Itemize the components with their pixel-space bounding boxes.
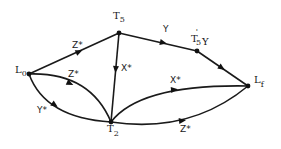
arrowhead-icon <box>112 66 119 73</box>
edge-T5-T2 <box>111 33 119 122</box>
edge-label-T2-Lf-upper: X* <box>170 75 181 85</box>
edge-label-T5-T2: X* <box>121 63 132 73</box>
edge-label-L0-T2-upper: Z* <box>68 69 79 79</box>
edge-label-L0-T2-lower: Y* <box>36 105 47 115</box>
edge-label-T5-T5pY: Y <box>162 24 169 34</box>
node-label-T5pY: T'5Y <box>191 27 209 47</box>
node-T5 <box>117 31 122 36</box>
node-label-Lf: Lf <box>254 74 265 89</box>
node-Lf <box>246 84 251 89</box>
arrowhead-icon <box>171 86 179 93</box>
edge-T2-Lf-upper <box>111 86 248 122</box>
node-label-T2: T2 <box>107 123 119 138</box>
edge-label-T2-Lf-lower: Z* <box>180 124 191 134</box>
arrowhead-icon <box>159 39 167 46</box>
edge-label-L0-T5: Z* <box>72 40 83 50</box>
node-T5pY <box>195 49 200 54</box>
node-label-T5: T5 <box>113 10 125 24</box>
edge-T5-T5pY <box>119 33 197 51</box>
node-L0 <box>27 72 32 77</box>
state-diagram: L0 T5 T'5Y Lf T2 Z* Y X* Z* Y* X* Z* <box>0 0 281 149</box>
node-label-L0: L0 <box>15 64 27 78</box>
